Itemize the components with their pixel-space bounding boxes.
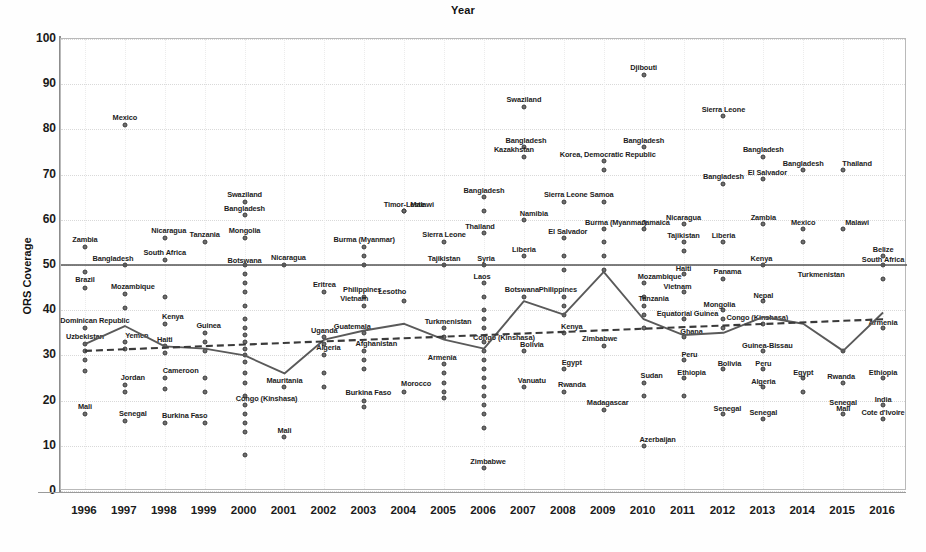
data-point — [641, 303, 646, 308]
point-label: Peru — [755, 358, 771, 367]
data-point — [601, 240, 606, 245]
plot-area: ZambiaBrazilDominican RepublicUzbekistan… — [60, 38, 906, 490]
point-label: Burma (Myanmar) — [334, 234, 395, 243]
data-point — [442, 396, 447, 401]
data-point — [521, 348, 526, 353]
data-point — [761, 385, 766, 390]
data-point — [721, 276, 726, 281]
data-point — [681, 335, 686, 340]
data-point — [561, 330, 566, 335]
data-point — [601, 407, 606, 412]
data-point — [681, 357, 686, 362]
data-point — [282, 263, 287, 268]
data-point — [362, 244, 367, 249]
point-label: Sierra Leone — [702, 104, 746, 113]
data-point — [521, 253, 526, 258]
data-point — [122, 122, 127, 127]
data-point — [881, 276, 886, 281]
data-point — [242, 452, 247, 457]
point-label: Uzbekistan — [66, 332, 104, 341]
y-tick-10: 10 — [10, 438, 56, 452]
point-label: Thailand — [465, 222, 495, 231]
point-label: Ethiopia — [677, 367, 705, 376]
data-point — [561, 199, 566, 204]
data-point — [202, 376, 207, 381]
data-point — [242, 333, 247, 338]
point-label: Bolivia — [520, 339, 544, 348]
data-point — [482, 326, 487, 331]
point-label: Tajikistan — [667, 231, 700, 240]
data-point — [521, 294, 526, 299]
point-label: Bangladesh — [703, 172, 744, 181]
data-point — [721, 326, 726, 331]
point-label: Burkina Faso — [162, 411, 208, 420]
point-label: Belize — [873, 244, 894, 253]
data-point — [482, 281, 487, 286]
data-point — [801, 168, 806, 173]
point-label: Malawi — [410, 199, 434, 208]
data-point — [362, 398, 367, 403]
gridline-y-10 — [61, 446, 905, 447]
data-point — [521, 217, 526, 222]
x-tick-2005: 2005 — [430, 504, 456, 516]
data-point — [841, 348, 846, 353]
point-label: Rwanda — [827, 372, 855, 381]
data-point — [362, 366, 367, 371]
point-label: Egypt — [562, 357, 582, 366]
point-label: Azerbaijan — [639, 435, 675, 444]
point-label: Congo (Kinshasa) — [727, 313, 789, 322]
data-point — [362, 253, 367, 258]
data-point — [162, 235, 167, 240]
point-label: Bangladesh — [743, 145, 784, 154]
data-point — [641, 443, 646, 448]
gridline-x-2010 — [644, 39, 645, 489]
data-point — [162, 421, 167, 426]
data-point — [641, 281, 646, 286]
data-point — [242, 235, 247, 240]
point-label: Botswana — [505, 285, 539, 294]
point-label: Burma (Myanmar) — [585, 217, 646, 226]
point-label: Nicaragua — [271, 252, 306, 261]
point-label: Bangladesh — [464, 185, 505, 194]
point-label: Guinea — [196, 320, 220, 329]
y-tick-60: 60 — [10, 212, 56, 226]
point-label: Syria — [477, 253, 495, 262]
y-tick-50: 50 — [10, 257, 56, 271]
gridline-x-2009 — [604, 39, 605, 489]
point-label: Bangladesh — [224, 204, 265, 213]
data-point — [282, 434, 287, 439]
data-point — [482, 348, 487, 353]
data-point — [561, 294, 566, 299]
point-label: Senegal — [714, 403, 742, 412]
data-point — [601, 159, 606, 164]
data-point — [601, 267, 606, 272]
data-point — [561, 366, 566, 371]
data-point — [82, 269, 87, 274]
data-point — [362, 303, 367, 308]
point-label: Vietnam — [340, 294, 368, 303]
data-point — [442, 380, 447, 385]
data-point — [761, 222, 766, 227]
y-tick-80: 80 — [10, 121, 56, 135]
data-point — [322, 335, 327, 340]
data-point — [761, 299, 766, 304]
data-point — [242, 412, 247, 417]
x-tick-2016: 2016 — [869, 504, 895, 516]
data-point — [482, 195, 487, 200]
gridline-y-0 — [61, 491, 905, 492]
point-label: India — [875, 394, 892, 403]
point-label: Philippines — [343, 285, 381, 294]
gridline-x-2015 — [843, 39, 844, 489]
x-tick-1996: 1996 — [71, 504, 97, 516]
data-point — [761, 348, 766, 353]
point-label: South Africa — [862, 254, 904, 263]
point-label: Panama — [714, 267, 742, 276]
point-label: Mauritania — [266, 375, 302, 384]
data-point — [521, 104, 526, 109]
data-point — [442, 263, 447, 268]
data-point — [641, 73, 646, 78]
point-label: Afghanistan — [355, 338, 397, 347]
data-point — [601, 199, 606, 204]
data-point — [841, 380, 846, 385]
point-label: Nepal — [754, 290, 774, 299]
